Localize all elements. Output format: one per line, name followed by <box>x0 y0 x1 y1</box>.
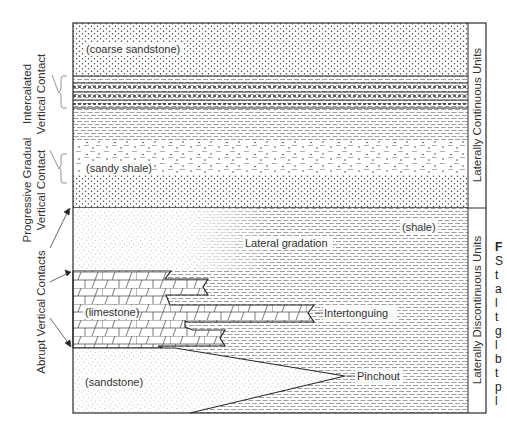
coarse-sandstone-label: (coarse sandstone) <box>86 43 180 55</box>
intertonguing-label: Intertonguing <box>324 307 388 319</box>
caption-fragment: F S t a l t g l b t p l <box>495 240 507 408</box>
caption-char: t <box>495 268 507 282</box>
stratigraphy-diagram: (coarse sandstone) (sandy shale) (shale)… <box>0 0 507 436</box>
brace-intercalated <box>52 75 67 108</box>
caption-char: p <box>495 380 507 394</box>
caption-char: F <box>495 240 507 254</box>
progressive-label-line1: Progressive Gradual <box>21 138 33 243</box>
caption-char: g <box>495 324 507 338</box>
caption-char: l <box>495 394 507 408</box>
progressive-label-line2: Vertical Contact <box>35 149 47 230</box>
lateral-gradation-label: Lateral gradation <box>245 237 328 249</box>
caption-char: S <box>495 254 507 268</box>
caption-char: b <box>495 352 507 366</box>
sandy-shale-label: (sandy shale) <box>86 162 152 174</box>
pinchout-label: Pinchout <box>357 370 400 382</box>
caption-char: t <box>495 310 507 324</box>
caption-char: l <box>495 338 507 352</box>
intercalated-label-line1: Intercalated <box>21 64 33 124</box>
caption-char: a <box>495 282 507 296</box>
intercalated-beds <box>73 76 468 109</box>
abrupt-contact-arrows <box>50 208 71 347</box>
intercalated-label-line2: Vertical Contact <box>35 53 47 134</box>
caption-char: l <box>495 296 507 310</box>
brace-progressive <box>50 150 67 183</box>
shale-label: (shale) <box>402 221 436 233</box>
caption-char: t <box>495 366 507 380</box>
left-contact-labels: Intercalated Vertical Contact Progressiv… <box>21 53 47 374</box>
limestone-label: (limestone) <box>85 306 139 318</box>
right-labels: Laterally Continuous Units Laterally Dis… <box>471 48 483 385</box>
laterally-discontinuous-label: Laterally Discontinuous Units <box>471 236 483 385</box>
sandstone-label: (sandstone) <box>85 376 143 388</box>
laterally-continuous-label: Laterally Continuous Units <box>471 48 483 182</box>
sandy-shale-layer <box>73 109 468 208</box>
abrupt-contacts-label: Abrupt Vertical Contacts <box>35 250 47 374</box>
